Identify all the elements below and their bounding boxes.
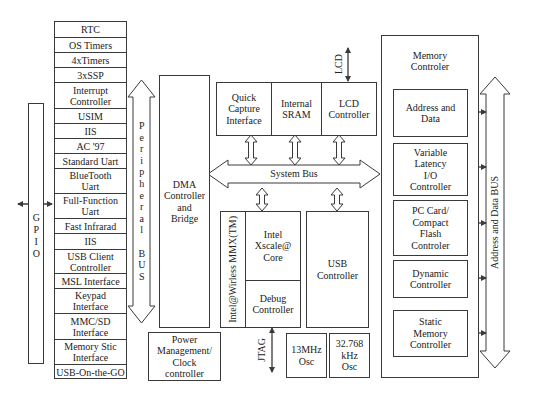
static-memory-controller: Static Memory Controller [393, 310, 468, 357]
core-bus-link-arrow [256, 188, 268, 211]
peripheral-keypad-interface: Keypad Interface [55, 288, 126, 313]
peripheral-standard-uart: Standard Uart [55, 153, 126, 168]
usb-bus-link-arrow [331, 188, 343, 211]
peripheral-usim: USIM [55, 108, 126, 123]
gpio-label: GPIO [30, 212, 42, 260]
peripheral-bluetooth-uart: BlueTooth Uart [55, 168, 126, 193]
internal-sram: Internal SRAM [271, 82, 322, 136]
peripheral-interrupt-controller: Interrupt Controller [55, 82, 126, 108]
peripheral-list: RTC OS Timers 4xTimers 3xSSP Interrupt C… [54, 21, 127, 379]
peripheral-iis: IIS [55, 123, 126, 138]
intel-wireless-mmx-block: Intel@Wirless MMX(TM) [220, 211, 246, 328]
peripheral-full-function-uart: Full-Function Uart [55, 193, 126, 218]
intel-wireless-mmx-label: Intel@Wirless MMX(TM) [227, 216, 239, 323]
peripheral-iis-2: IIS [55, 233, 126, 249]
peripheral-mmc-sd-interface: MMC/SD Interface [55, 313, 126, 339]
power-management-clock-controller: Power Management/ Clock controller [148, 332, 221, 381]
qci-bus-link-arrow [245, 135, 257, 165]
sram-bus-link-arrow [289, 135, 301, 165]
peripheral-msl-interface: MSL Interface [55, 273, 126, 288]
memory-controller-title: Memory Controler [381, 48, 479, 74]
peripheral-rtc: RTC [55, 22, 126, 37]
jtag-label: JTAG [256, 338, 268, 362]
peripheral-ac97: AC '97 [55, 138, 126, 153]
address-data-bus-label: Address and Data BUS [489, 176, 501, 269]
peripheral-fast-infrared: Fast Infrarad [55, 218, 126, 233]
pc-card-compact-flash-controller: PC Card/ Compact Flash Controler [393, 200, 468, 256]
peripheral-usb-otg: USB-On-the-GO [55, 364, 126, 379]
intel-xscale-core: Intel Xscale@ Core [245, 211, 301, 281]
lcd-controller: LCD Controller [321, 82, 377, 136]
peripheral-4x-timers: 4xTimers [55, 52, 126, 67]
peripheral-memory-stick-interface: Memory Stic Interface [55, 339, 126, 364]
osc-13mhz: 13MHz Osc [286, 333, 327, 378]
dma-controller-bridge: DMA Controller and Bridge [159, 75, 210, 328]
lcd-label: LCD [333, 54, 345, 74]
lcd-bus-link-arrow [333, 135, 345, 165]
variable-latency-io-controller: Variable Latency I/O Controller [393, 143, 468, 196]
usb-controller: USB Controller [306, 211, 369, 328]
soc-block-diagram: GPIO RTC OS Timers 4xTimers 3xSSP Interr… [0, 0, 535, 398]
dynamic-controller: Dynamic Controller [393, 260, 468, 298]
system-bus-label: System Bus [228, 166, 360, 182]
address-and-data-block: Address and Data [393, 89, 468, 137]
peripheral-usb-client-controller: USB Client Controller [55, 249, 126, 273]
peripheral-3x-ssp: 3xSSP [55, 67, 126, 82]
osc-32768khz: 32.768 kHz Osc [329, 333, 370, 378]
peripheral-bus-label: Peripheral BUS [136, 120, 148, 282]
debug-controller: Debug Controller [245, 280, 301, 328]
quick-capture-interface: Quick Capture Interface [216, 82, 272, 136]
peripheral-os-timers: OS Timers [55, 37, 126, 52]
